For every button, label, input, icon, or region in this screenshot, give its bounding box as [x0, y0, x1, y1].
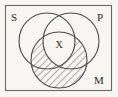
label-p: P [97, 11, 103, 23]
label-m: M [94, 74, 104, 86]
venn-diagram-canvas: S P M X [0, 0, 118, 97]
label-x-mark: X [55, 39, 63, 50]
label-s: S [11, 11, 17, 23]
venn-diagram-svg: S P M X [0, 0, 118, 97]
